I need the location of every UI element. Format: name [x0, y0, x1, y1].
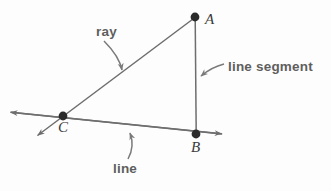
point-b-label: B: [191, 140, 200, 155]
line-segment-label: line segment: [228, 60, 313, 74]
geometry-diagram: ray line segment line A B C: [0, 0, 331, 191]
segment-stroke: [195, 18, 196, 135]
line-segment-callout-arrow: [201, 64, 224, 76]
line-through-C-and-B: [11, 112, 223, 134]
line-callout-arrow: [128, 133, 132, 159]
point-c-label: C: [58, 120, 68, 135]
ray-callout-arrow: [104, 41, 122, 70]
segment-AB: [195, 18, 196, 135]
point-b-dot: [192, 130, 201, 139]
point-a-label: A: [205, 12, 214, 27]
geometry-canvas: [0, 0, 331, 191]
point-a-dot: [191, 13, 200, 22]
ray-label: ray: [96, 25, 117, 39]
line-label: line: [113, 162, 137, 176]
line-right-arrow-half: [11, 112, 222, 134]
